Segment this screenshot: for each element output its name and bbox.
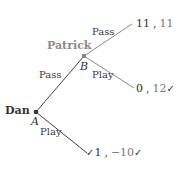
move-label-A-pass: Pass: [39, 70, 62, 80]
payoff-patrick: −10: [111, 146, 134, 159]
payoff-dan: 11: [136, 17, 150, 30]
node-A-dot: [34, 110, 39, 115]
payoff-separator: ,: [104, 146, 108, 159]
edge-A-B-pass: [36, 56, 84, 112]
node-B-dot: [82, 54, 86, 58]
checkmark-icon: ✓: [167, 83, 175, 94]
player-label-dan: Dan: [5, 105, 30, 116]
payoff-separator: ,: [153, 17, 157, 30]
move-label-B-play: Play: [92, 70, 114, 80]
checkmark-icon: ✓: [134, 147, 142, 158]
payoff-terminal-2: 0,12✓: [136, 83, 175, 94]
move-label-A-play: Play: [40, 127, 62, 137]
payoff-separator: ,: [146, 82, 150, 95]
payoff-terminal-3: ✓1,−10✓: [86, 147, 143, 158]
node-label-B: B: [80, 61, 88, 72]
payoff-dan: 1: [94, 146, 101, 159]
payoff-patrick: 12: [153, 82, 167, 95]
player-label-patrick: Patrick: [47, 40, 91, 51]
payoff-terminal-1: 11,11: [136, 18, 174, 29]
payoff-patrick: 11: [160, 17, 174, 30]
payoff-dan: 0: [136, 82, 143, 95]
node-label-A: A: [31, 116, 39, 127]
move-label-B-pass: Pass: [92, 27, 115, 37]
